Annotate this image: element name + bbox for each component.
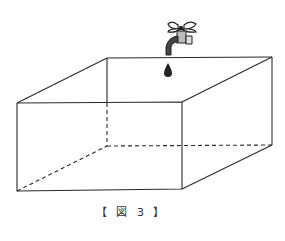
bottom-right-edge: [182, 145, 272, 189]
hidden-edges: [17, 103, 272, 191]
hidden-bottom-left-edge: [17, 146, 107, 191]
top-right-edge: [182, 57, 272, 102]
hidden-bottom-back-edge: [107, 145, 272, 146]
top-back-edge: [107, 57, 272, 58]
top-left-edge: [17, 58, 107, 103]
cuboid-tank: [17, 57, 272, 191]
faucet-icon: [166, 22, 196, 55]
water-drop-icon: [164, 63, 172, 77]
figure-caption: 【 図 3 】: [96, 203, 156, 219]
front-face: [17, 102, 182, 191]
